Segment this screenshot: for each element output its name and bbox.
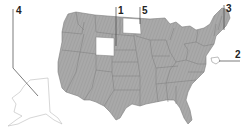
label-3: 3: [226, 3, 232, 14]
label-4: 4: [16, 5, 22, 16]
state-north-dakota: [123, 18, 141, 34]
us-map: 1 2 3 4 5: [0, 0, 246, 131]
contiguous-us: [58, 8, 230, 124]
state-wyoming: [96, 37, 114, 56]
state-alaska: [8, 78, 62, 126]
state-maryland: [211, 57, 220, 64]
label-2: 2: [235, 49, 241, 60]
label-1: 1: [118, 5, 124, 16]
label-5: 5: [142, 5, 148, 16]
